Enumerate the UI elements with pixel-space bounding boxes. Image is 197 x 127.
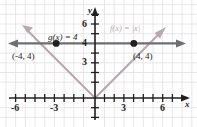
x-tick-label-6: 6 xyxy=(160,103,165,113)
g-left-arrowhead xyxy=(8,39,18,47)
graph-figure: y x 6 4 3 -6 -3 3 6 f(x) = |x| g(x) = 4 … xyxy=(0,0,197,127)
g-right-arrowhead xyxy=(176,39,186,47)
f-left-arrowhead xyxy=(22,25,33,33)
x-tick-label-neg6: -6 xyxy=(11,103,19,113)
x-tick-label-neg3: -3 xyxy=(50,103,58,113)
f-function-label: f(x) = |x| xyxy=(110,24,140,33)
point-marker-right[interactable] xyxy=(130,40,137,47)
y-tick-label-3: 3 xyxy=(82,57,87,67)
f-curve-absolute-value xyxy=(22,25,166,98)
g-function-label: g(x) = 4 xyxy=(48,33,78,42)
x-tick-label-3: 3 xyxy=(121,103,126,113)
coordinate-plane xyxy=(0,0,197,127)
x-axis-label: x xyxy=(185,100,190,109)
point-label-left: (-4, 4) xyxy=(12,52,35,61)
point-label-right: (4, 4) xyxy=(133,52,153,61)
y-tick-label-4: 4 xyxy=(82,38,87,48)
y-axis-label: y xyxy=(88,6,92,15)
y-tick-label-6: 6 xyxy=(82,19,87,29)
